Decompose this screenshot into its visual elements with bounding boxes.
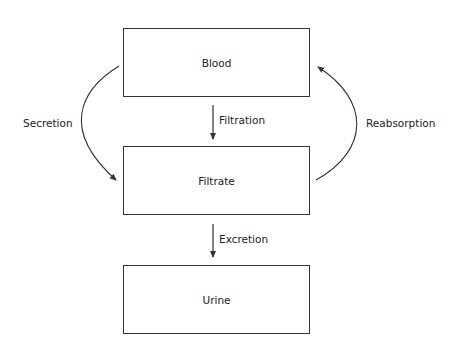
secretion-arrow xyxy=(81,66,119,180)
node-filtrate: Filtrate xyxy=(123,146,310,215)
secretion-label: Secretion xyxy=(23,117,73,129)
node-blood: Blood xyxy=(123,28,310,97)
reabsorption-arrow xyxy=(316,67,357,180)
node-filtrate-label: Filtrate xyxy=(198,175,235,187)
reabsorption-label: Reabsorption xyxy=(366,117,435,129)
node-urine: Urine xyxy=(123,265,310,334)
filtration-label: Filtration xyxy=(219,114,265,126)
node-urine-label: Urine xyxy=(202,294,230,306)
excretion-label: Excretion xyxy=(219,233,268,245)
node-blood-label: Blood xyxy=(202,57,232,69)
